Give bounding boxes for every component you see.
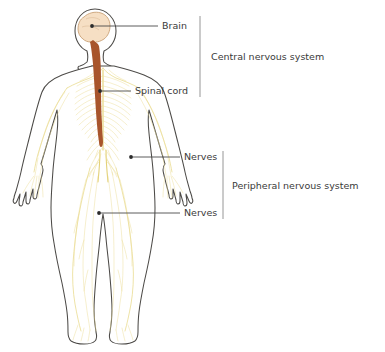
nervous-system-diagram: Brain Spinal cord Nerves Nerves Central …	[0, 0, 385, 352]
label-brain: Brain	[162, 20, 187, 31]
anchor-dot-nerves-leg	[97, 211, 101, 215]
label-spinal-cord: Spinal cord	[135, 85, 188, 96]
group-labels: Central nervous system Peripheral nervou…	[211, 51, 359, 191]
anchor-dot-nerves-arm	[129, 155, 133, 159]
label-peripheral-nervous-system: Peripheral nervous system	[232, 180, 359, 191]
label-central-nervous-system: Central nervous system	[211, 51, 324, 62]
label-nerves-arm: Nerves	[184, 151, 217, 162]
anchor-dot-brain	[90, 24, 94, 28]
label-nerves-leg: Nerves	[184, 207, 217, 218]
human-body-outline	[13, 9, 193, 344]
anchor-dot-spinal-cord	[98, 89, 102, 93]
group-brackets	[200, 16, 223, 219]
diagram-canvas: Brain Spinal cord Nerves Nerves Central …	[0, 0, 385, 352]
